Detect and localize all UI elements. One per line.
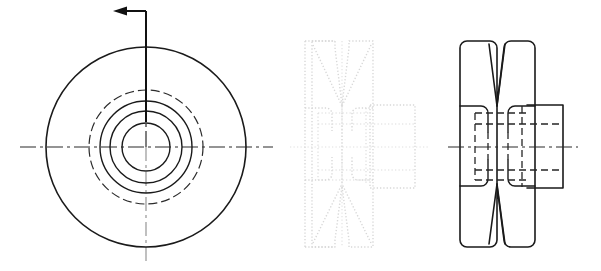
- drawing-sheet: [0, 0, 601, 271]
- ghost-groove-wall-top-right: [342, 45, 371, 106]
- ghost-groove-wall-bottom-right: [342, 184, 371, 243]
- groove-wall-bottom-left: [489, 184, 497, 244]
- groove-wall-bottom-right: [497, 184, 505, 244]
- groove-wall-top-right: [497, 44, 505, 106]
- ghost-side-view: [290, 41, 428, 247]
- relief-pocket-lower-left: [460, 160, 488, 186]
- relief-pocket-upper-left: [460, 106, 488, 132]
- ghost-groove-wall-top-left: [313, 45, 342, 106]
- technical-drawing-canvas: [0, 0, 601, 271]
- ghost-groove-wall-bottom-left: [313, 184, 342, 243]
- section-arrow-head: [113, 7, 127, 16]
- side-section-view: [448, 41, 578, 247]
- front-view: [20, 7, 273, 266]
- groove-wall-top-left: [489, 44, 497, 106]
